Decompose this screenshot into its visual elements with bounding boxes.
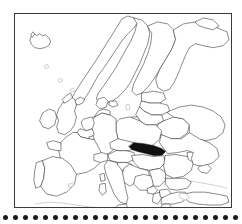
island-faroe bbox=[59, 78, 63, 82]
rule-dot bbox=[223, 215, 228, 220]
rule-dot bbox=[183, 215, 188, 220]
island-small-north bbox=[45, 64, 49, 68]
rule-dot bbox=[103, 215, 108, 220]
rule-dot bbox=[33, 215, 38, 220]
island-baltic-gotland bbox=[126, 104, 130, 110]
denmark-island bbox=[109, 101, 118, 107]
italy-corsica bbox=[100, 173, 105, 181]
country-austria bbox=[108, 151, 136, 163]
country-united-kingdom bbox=[57, 97, 77, 135]
rule-dot bbox=[153, 215, 158, 220]
north-africa-coast bbox=[35, 202, 104, 207]
rule-dot bbox=[213, 215, 218, 220]
rule-dot bbox=[113, 215, 118, 220]
rule-dot bbox=[193, 215, 198, 220]
rule-dot bbox=[73, 215, 78, 220]
rule-dot bbox=[133, 215, 138, 220]
rule-dot bbox=[233, 215, 238, 220]
italy-sardinia bbox=[99, 183, 106, 195]
country-switzerland bbox=[94, 153, 108, 163]
rule-dot bbox=[63, 215, 68, 220]
rule-dot bbox=[203, 215, 208, 220]
country-ireland bbox=[40, 109, 57, 129]
greece-peloponnese bbox=[162, 204, 172, 207]
figure-root bbox=[0, 0, 242, 224]
france-brittany bbox=[47, 141, 61, 151]
uk-north-islands bbox=[70, 88, 74, 92]
europe-map bbox=[15, 14, 231, 207]
rule-dot bbox=[23, 215, 28, 220]
italy-sicily bbox=[116, 204, 128, 207]
dot-rule bbox=[0, 213, 242, 224]
rule-dot bbox=[13, 215, 18, 220]
rule-dot bbox=[43, 215, 48, 220]
country-turkey bbox=[183, 192, 229, 205]
rule-dot bbox=[173, 215, 178, 220]
rule-dot bbox=[123, 215, 128, 220]
rule-dot bbox=[93, 215, 98, 220]
rule-dot bbox=[83, 215, 88, 220]
map-frame bbox=[14, 13, 232, 208]
rule-dot bbox=[143, 215, 148, 220]
rule-dot bbox=[3, 215, 8, 220]
rule-dot bbox=[53, 215, 58, 220]
rule-dot bbox=[163, 215, 168, 220]
country-estonia bbox=[142, 91, 166, 103]
country-bulgaria bbox=[166, 178, 192, 190]
